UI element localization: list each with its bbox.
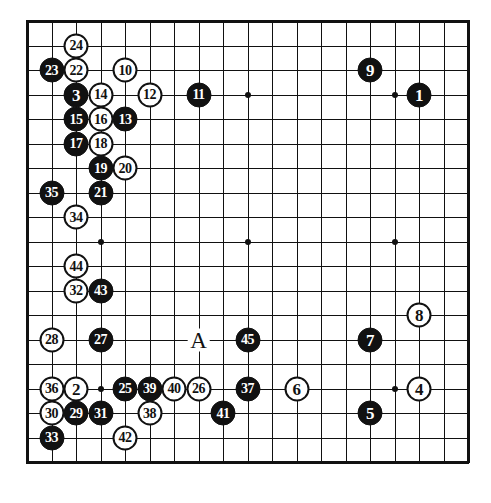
stone-white-18[interactable]: 18 bbox=[88, 131, 113, 156]
goban-grid[interactable]: A123456789101112131415161718192021222324… bbox=[0, 0, 491, 503]
stone-white-36[interactable]: 36 bbox=[39, 376, 64, 401]
stone-white-10[interactable]: 10 bbox=[113, 58, 138, 83]
stone-move-number: 16 bbox=[94, 112, 107, 126]
stone-black-15[interactable]: 15 bbox=[64, 107, 89, 132]
star-point bbox=[392, 92, 398, 98]
stone-move-number: 26 bbox=[192, 382, 205, 396]
stone-move-number: 1 bbox=[415, 86, 423, 103]
stone-white-40[interactable]: 40 bbox=[162, 376, 187, 401]
star-point bbox=[98, 239, 104, 245]
stone-black-19[interactable]: 19 bbox=[88, 156, 113, 181]
go-board-figure: A123456789101112131415161718192021222324… bbox=[0, 0, 491, 503]
stone-move-number: 27 bbox=[94, 333, 107, 347]
stone-move-number: 12 bbox=[143, 88, 156, 102]
stone-move-number: 36 bbox=[45, 382, 58, 396]
stone-move-number: 11 bbox=[192, 88, 204, 102]
stone-move-number: 10 bbox=[119, 63, 132, 77]
stone-black-13[interactable]: 13 bbox=[113, 107, 138, 132]
stone-move-number: 23 bbox=[45, 63, 58, 77]
stone-move-number: 19 bbox=[94, 161, 107, 175]
stone-white-28[interactable]: 28 bbox=[39, 327, 64, 352]
stone-black-37[interactable]: 37 bbox=[235, 376, 260, 401]
stone-move-number: 15 bbox=[70, 112, 83, 126]
stone-black-27[interactable]: 27 bbox=[88, 327, 113, 352]
stone-white-2[interactable]: 2 bbox=[64, 376, 89, 401]
stone-move-number: 32 bbox=[70, 284, 83, 298]
stone-black-29[interactable]: 29 bbox=[64, 401, 89, 426]
stone-white-12[interactable]: 12 bbox=[137, 82, 162, 107]
grid-line-vertical bbox=[272, 21, 273, 462]
stone-move-number: 2 bbox=[72, 380, 80, 397]
stone-white-8[interactable]: 8 bbox=[407, 303, 432, 328]
stone-black-1[interactable]: 1 bbox=[407, 82, 432, 107]
stone-move-number: 37 bbox=[241, 382, 254, 396]
stone-move-number: 45 bbox=[241, 333, 254, 347]
star-point bbox=[392, 239, 398, 245]
stone-move-number: 5 bbox=[366, 405, 374, 422]
stone-move-number: 44 bbox=[70, 259, 83, 273]
grid-line-vertical bbox=[321, 21, 322, 462]
stone-black-9[interactable]: 9 bbox=[358, 58, 383, 83]
stone-white-20[interactable]: 20 bbox=[113, 156, 138, 181]
stone-move-number: 14 bbox=[94, 88, 107, 102]
stone-black-45[interactable]: 45 bbox=[235, 327, 260, 352]
stone-black-43[interactable]: 43 bbox=[88, 278, 113, 303]
stone-black-39[interactable]: 39 bbox=[137, 376, 162, 401]
star-point bbox=[245, 239, 251, 245]
stone-move-number: 20 bbox=[119, 161, 132, 175]
stone-black-17[interactable]: 17 bbox=[64, 131, 89, 156]
stone-white-24[interactable]: 24 bbox=[64, 33, 89, 58]
star-point bbox=[98, 386, 104, 392]
stone-white-30[interactable]: 30 bbox=[39, 401, 64, 426]
grid-line-vertical bbox=[467, 20, 470, 463]
stone-white-38[interactable]: 38 bbox=[137, 401, 162, 426]
stone-move-number: 6 bbox=[293, 380, 301, 397]
stone-black-11[interactable]: 11 bbox=[186, 82, 211, 107]
stone-move-number: 40 bbox=[168, 382, 181, 396]
stone-move-number: 3 bbox=[72, 86, 80, 103]
stone-move-number: 8 bbox=[415, 307, 423, 324]
star-point bbox=[245, 92, 251, 98]
stone-move-number: 9 bbox=[366, 62, 374, 79]
stone-white-22[interactable]: 22 bbox=[64, 58, 89, 83]
stone-move-number: 24 bbox=[70, 39, 83, 53]
stone-move-number: 7 bbox=[366, 331, 374, 348]
stone-black-41[interactable]: 41 bbox=[211, 401, 236, 426]
stone-move-number: 30 bbox=[45, 406, 58, 420]
stone-white-44[interactable]: 44 bbox=[64, 254, 89, 279]
stone-white-34[interactable]: 34 bbox=[64, 205, 89, 230]
grid-line-vertical bbox=[223, 21, 224, 462]
stone-move-number: 31 bbox=[94, 406, 107, 420]
stone-black-35[interactable]: 35 bbox=[39, 180, 64, 205]
stone-black-31[interactable]: 31 bbox=[88, 401, 113, 426]
stone-black-7[interactable]: 7 bbox=[358, 327, 383, 352]
stone-white-26[interactable]: 26 bbox=[186, 376, 211, 401]
stone-white-32[interactable]: 32 bbox=[64, 278, 89, 303]
stone-move-number: 29 bbox=[70, 406, 83, 420]
board-marker-a: A bbox=[187, 328, 210, 351]
stone-white-14[interactable]: 14 bbox=[88, 82, 113, 107]
stone-black-21[interactable]: 21 bbox=[88, 180, 113, 205]
stone-white-42[interactable]: 42 bbox=[113, 425, 138, 450]
stone-black-23[interactable]: 23 bbox=[39, 58, 64, 83]
stone-move-number: 25 bbox=[119, 382, 132, 396]
stone-black-33[interactable]: 33 bbox=[39, 425, 64, 450]
stone-white-16[interactable]: 16 bbox=[88, 107, 113, 132]
stone-black-3[interactable]: 3 bbox=[64, 82, 89, 107]
stone-black-5[interactable]: 5 bbox=[358, 401, 383, 426]
stone-black-25[interactable]: 25 bbox=[113, 376, 138, 401]
stone-move-number: 18 bbox=[94, 137, 107, 151]
stone-move-number: 28 bbox=[45, 333, 58, 347]
grid-line-vertical bbox=[346, 21, 347, 462]
stone-white-6[interactable]: 6 bbox=[284, 376, 309, 401]
stone-move-number: 17 bbox=[70, 137, 83, 151]
stone-white-4[interactable]: 4 bbox=[407, 376, 432, 401]
stone-move-number: 4 bbox=[415, 380, 423, 397]
star-point bbox=[392, 386, 398, 392]
stone-move-number: 34 bbox=[70, 210, 83, 224]
stone-move-number: 41 bbox=[217, 406, 230, 420]
stone-move-number: 38 bbox=[143, 406, 156, 420]
stone-move-number: 13 bbox=[119, 112, 132, 126]
grid-line-vertical bbox=[444, 21, 445, 462]
stone-move-number: 35 bbox=[45, 186, 58, 200]
